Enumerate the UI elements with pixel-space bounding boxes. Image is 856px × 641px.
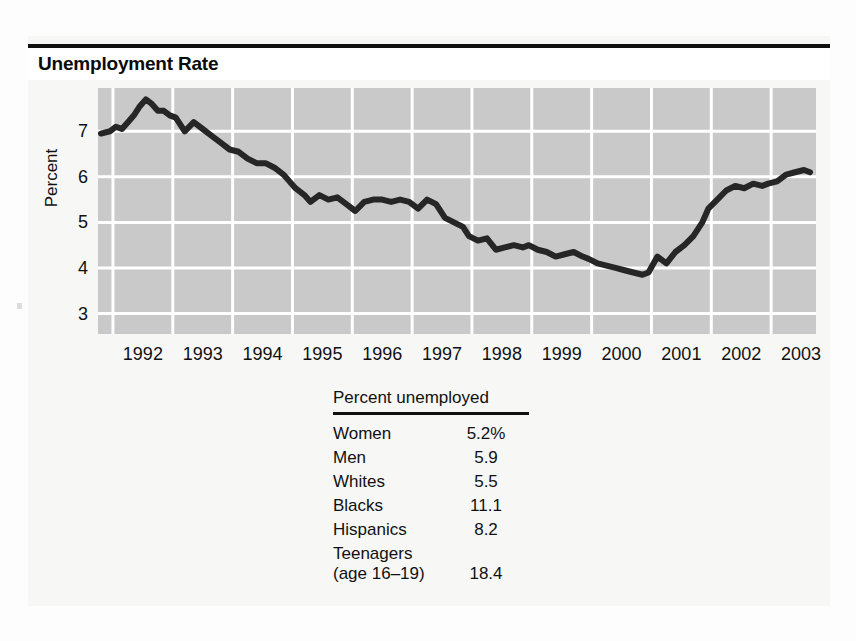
table-row: Men5.9	[333, 448, 563, 472]
table-row: Teenagers (age 16–19) 18.4	[333, 544, 563, 584]
stat-table-header-rule	[333, 412, 529, 415]
x-axis-tick-1993: 1993	[171, 344, 235, 364]
stat-value: 18.4	[443, 564, 529, 584]
y-axis-tick-3: 3	[54, 305, 88, 323]
stat-value: 5.9	[443, 448, 529, 468]
table-row: Whites5.5	[333, 472, 563, 496]
x-axis-tick-1998: 1998	[470, 344, 534, 364]
x-axis-tick-1996: 1996	[350, 344, 414, 364]
x-axis-tick-2001: 2001	[649, 344, 713, 364]
stat-value: 5.5	[443, 472, 529, 492]
x-axis-tick-1999: 1999	[530, 344, 594, 364]
table-row: Blacks11.1	[333, 496, 563, 520]
x-axis-tick-2000: 2000	[590, 344, 654, 364]
x-axis-tick-1994: 1994	[231, 344, 295, 364]
table-row: Women5.2%	[333, 424, 563, 448]
x-axis-tick-2002: 2002	[709, 344, 773, 364]
stat-table-header: Percent unemployed	[333, 388, 563, 412]
stat-table: Percent unemployed Women5.2%Men5.9Whites…	[333, 388, 563, 584]
y-axis-tick-4: 4	[54, 259, 88, 277]
y-axis-tick-7: 7	[54, 122, 88, 140]
data-line-series	[101, 99, 810, 274]
stat-value: 5.2%	[443, 424, 529, 444]
stat-label-line2: (age 16–19)	[333, 564, 443, 584]
table-row: Hispanics8.2	[333, 520, 563, 544]
chart-svg	[98, 88, 816, 334]
stat-label: Hispanics	[333, 520, 443, 540]
stat-label: Blacks	[333, 496, 443, 516]
x-axis-tick-2003: 2003	[769, 344, 833, 364]
page-title: Unemployment Rate	[38, 50, 218, 78]
stat-label: Women	[333, 424, 443, 444]
x-axis-tick-1997: 1997	[410, 344, 474, 364]
stat-value: 8.2	[443, 520, 529, 540]
y-axis-tick-5: 5	[54, 213, 88, 231]
x-axis-tick-1995: 1995	[290, 344, 354, 364]
stat-value: 11.1	[443, 496, 529, 516]
y-axis-tick-6: 6	[54, 168, 88, 186]
stat-table-rows: Women5.2%Men5.9Whites5.5Blacks11.1Hispan…	[333, 424, 563, 544]
scan-speck	[17, 303, 22, 309]
x-axis-tick-1992: 1992	[111, 344, 175, 364]
figure-page: Unemployment Rate Percent 34567 19921993…	[0, 0, 856, 641]
stat-label: Men	[333, 448, 443, 468]
chart-plot-area	[98, 88, 816, 334]
stat-label-line1: Teenagers	[333, 544, 443, 564]
stat-label: Whites	[333, 472, 443, 492]
